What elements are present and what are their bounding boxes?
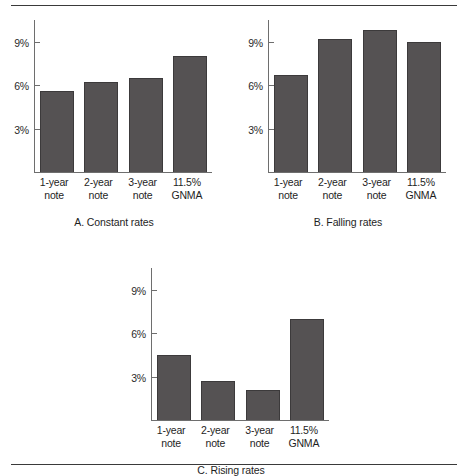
bar-slot-c-1 [196, 268, 236, 420]
y-tick-label-b-1: 6% [248, 80, 263, 92]
x-tick-labels-a: 1-yearnote2-yearnote3-yearnote11.5%GNMA [35, 176, 212, 206]
bar-slot-b-3 [402, 20, 442, 172]
bar-slot-a-1 [79, 20, 119, 172]
x-tick-label-c-2: 3-yearnote [237, 424, 283, 450]
bar-c-2 [246, 390, 280, 420]
x-tick-label-b-1: 2-yearnote [309, 176, 355, 202]
x-axis-line-a [34, 172, 212, 173]
x-tick-label-line: 11.5% [398, 176, 444, 189]
x-tick-label-line: 2-year [75, 176, 121, 189]
x-tick-label-line: 2-year [192, 424, 238, 437]
x-tick-label-line: GNMA [164, 189, 210, 202]
bar-c-1 [201, 381, 235, 420]
x-tick-label-b-0: 1-yearnote [265, 176, 311, 202]
x-tick-label-line: GNMA [398, 189, 444, 202]
y-tick-label-c-0: 3% [131, 372, 146, 384]
x-tick-label-line: 1-year [31, 176, 77, 189]
x-axis-line-c [151, 420, 329, 421]
x-tick-label-line: GNMA [281, 437, 327, 450]
plot-area-b: 3%6%9% [250, 20, 446, 172]
x-tick-label-line: 3-year [354, 176, 400, 189]
bar-slot-a-0 [35, 20, 75, 172]
x-tick-label-line: 3-year [237, 424, 283, 437]
x-tick-label-line: 11.5% [164, 176, 210, 189]
top-rule [11, 5, 457, 6]
bar-slot-c-0 [152, 268, 192, 420]
panel-caption-b: B. Falling rates [250, 216, 446, 228]
x-axis-line-b [268, 172, 446, 173]
x-tick-label-line: note [309, 189, 355, 202]
y-tick-label-b-0: 3% [248, 124, 263, 136]
x-tick-label-c-1: 2-yearnote [192, 424, 238, 450]
x-tick-label-b-2: 3-yearnote [354, 176, 400, 202]
bar-a-0 [40, 91, 74, 172]
x-tick-labels-c: 1-yearnote2-yearnote3-yearnote11.5%GNMA [152, 424, 329, 454]
x-tick-labels-b: 1-yearnote2-yearnote3-yearnote11.5%GNMA [269, 176, 446, 206]
y-tick-label-a-2: 9% [14, 37, 29, 49]
x-tick-label-line: note [192, 437, 238, 450]
chart-panel-b: 3%6%9% 1-yearnote2-yearnote3-yearnote11.… [250, 20, 446, 172]
bar-slot-b-1 [313, 20, 353, 172]
y-tick-label-c-2: 9% [131, 285, 146, 297]
x-tick-label-line: note [120, 189, 166, 202]
x-tick-label-a-2: 3-yearnote [120, 176, 166, 202]
bar-group-c [152, 268, 329, 420]
plot-area-a: 3%6%9% [16, 20, 212, 172]
x-tick-label-c-3: 11.5%GNMA [281, 424, 327, 450]
x-tick-label-a-3: 11.5%GNMA [164, 176, 210, 202]
bar-group-b [269, 20, 446, 172]
x-tick-label-line: 3-year [120, 176, 166, 189]
panel-caption-a: A. Constant rates [16, 216, 212, 228]
bar-slot-b-2 [358, 20, 398, 172]
bar-a-2 [129, 78, 163, 172]
y-tick-label-a-1: 6% [14, 80, 29, 92]
bar-c-0 [157, 355, 191, 420]
y-tick-label-a-0: 3% [14, 124, 29, 136]
x-tick-label-line: note [265, 189, 311, 202]
bar-slot-a-2 [124, 20, 164, 172]
y-tick-label-c-1: 6% [131, 328, 146, 340]
bar-a-3 [173, 56, 207, 172]
bar-b-2 [363, 30, 397, 172]
x-tick-label-line: note [31, 189, 77, 202]
x-tick-label-line: note [237, 437, 283, 450]
chart-panel-a: 3%6%9% 1-yearnote2-yearnote3-yearnote11.… [16, 20, 212, 172]
bar-b-1 [318, 39, 352, 172]
x-tick-label-b-3: 11.5%GNMA [398, 176, 444, 202]
x-tick-label-line: note [75, 189, 121, 202]
bar-b-3 [407, 42, 441, 172]
x-tick-label-line: note [148, 437, 194, 450]
bar-slot-a-3 [168, 20, 208, 172]
bar-b-0 [274, 75, 308, 172]
bar-c-3 [290, 319, 324, 420]
x-tick-label-line: 2-year [309, 176, 355, 189]
bar-a-1 [84, 82, 118, 172]
bar-slot-c-2 [241, 268, 281, 420]
chart-panel-c: 3%6%9% 1-yearnote2-yearnote3-yearnote11.… [133, 268, 329, 420]
panel-caption-c: C. Rising rates [133, 464, 329, 476]
x-tick-label-a-1: 2-yearnote [75, 176, 121, 202]
bar-slot-c-3 [285, 268, 325, 420]
x-tick-label-line: note [354, 189, 400, 202]
x-tick-label-a-0: 1-yearnote [31, 176, 77, 202]
x-tick-label-c-0: 1-yearnote [148, 424, 194, 450]
plot-area-c: 3%6%9% [133, 268, 329, 420]
y-tick-label-b-2: 9% [248, 37, 263, 49]
x-tick-label-line: 1-year [265, 176, 311, 189]
x-tick-label-line: 1-year [148, 424, 194, 437]
bar-group-a [35, 20, 212, 172]
bar-slot-b-0 [269, 20, 309, 172]
x-tick-label-line: 11.5% [281, 424, 327, 437]
